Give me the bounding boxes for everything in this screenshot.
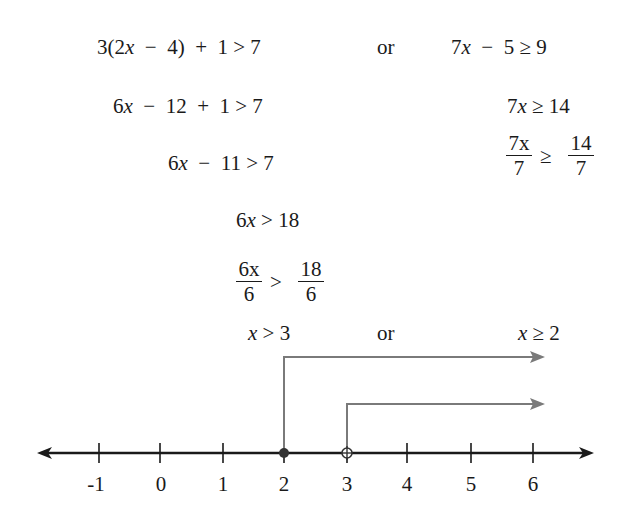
tick-label: 0 — [146, 472, 176, 496]
tick-label: 1 — [208, 472, 238, 496]
tick-label: 2 — [269, 472, 299, 496]
number-line — [0, 0, 627, 514]
tick-label: 6 — [518, 472, 548, 496]
tick-label: 3 — [332, 472, 362, 496]
tick-label: -1 — [81, 472, 111, 496]
closed-point-2 — [279, 448, 289, 458]
ray-x-gt-3 — [347, 404, 535, 453]
tick-label: 5 — [456, 472, 486, 496]
tick-label: 4 — [392, 472, 422, 496]
